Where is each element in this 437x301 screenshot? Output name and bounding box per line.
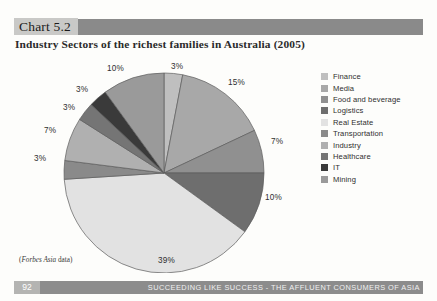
chart-legend: FinanceMediaFood and beverageLogisticsRe…: [321, 71, 433, 185]
pie-slice-label: 3%: [63, 103, 75, 112]
legend-item[interactable]: IT: [321, 162, 433, 173]
page-canvas: Chart 5.2 Industry Sectors of the riches…: [0, 0, 437, 301]
source-note-suffix: data): [56, 256, 72, 264]
legend-swatch-icon: [321, 153, 328, 160]
legend-item[interactable]: Finance: [321, 71, 433, 82]
source-note-publication: Forbes Asia: [21, 256, 56, 264]
legend-swatch-icon: [321, 73, 328, 80]
pie-slice-label: 3%: [34, 154, 46, 163]
legend-swatch-icon: [321, 107, 328, 114]
pie-slice-label: 3%: [171, 62, 183, 71]
chart-number-badge: Chart 5.2: [14, 18, 78, 35]
legend-item[interactable]: Transportation: [321, 128, 433, 139]
source-note: (Forbes Asia data): [19, 256, 72, 264]
page-number: 92: [14, 281, 40, 294]
page-title: Industry Sectors of the richest families…: [15, 38, 305, 50]
legend-swatch-icon: [321, 142, 328, 149]
legend-item-label: Transportation: [333, 129, 383, 138]
legend-swatch-icon: [321, 176, 328, 183]
legend-item[interactable]: Mining: [321, 174, 433, 185]
legend-swatch-icon: [321, 85, 328, 92]
legend-item-label: Food and beverage: [333, 95, 401, 104]
legend-item[interactable]: Media: [321, 82, 433, 93]
legend-item[interactable]: Healthcare: [321, 151, 433, 162]
pie-slice-label: 10%: [265, 193, 282, 202]
legend-item[interactable]: Industry: [321, 139, 433, 150]
pie-chart-svg: [24, 58, 304, 273]
legend-item-label: Healthcare: [333, 152, 371, 161]
pie-chart: 3%15%7%10%39%3%7%3%3%10%: [24, 58, 304, 273]
footer-text: SUCCEEDING LIKE SUCCESS - THE AFFLUENT C…: [148, 281, 420, 294]
legend-item-label: Real Estate: [333, 118, 373, 127]
legend-item-label: Finance: [333, 72, 361, 81]
legend-item[interactable]: Food and beverage: [321, 94, 433, 105]
pie-slice-label: 7%: [44, 126, 56, 135]
legend-item-label: Logistics: [333, 106, 363, 115]
legend-item[interactable]: Logistics: [321, 105, 433, 116]
legend-item-label: Mining: [333, 175, 356, 184]
pie-slice-label: 7%: [271, 137, 283, 146]
pie-slice-label: 39%: [158, 256, 175, 265]
legend-item-label: Media: [333, 84, 354, 93]
pie-slice-label: 15%: [228, 78, 245, 87]
legend-swatch-icon: [321, 96, 328, 103]
legend-swatch-icon: [321, 130, 328, 137]
legend-item[interactable]: Real Estate: [321, 117, 433, 128]
pie-slice-group: [64, 73, 264, 273]
pie-slice-label: 10%: [107, 64, 124, 73]
legend-swatch-icon: [321, 119, 328, 126]
legend-swatch-icon: [321, 164, 328, 171]
legend-item-label: IT: [333, 163, 340, 172]
pie-slice-label: 3%: [76, 85, 88, 94]
legend-item-label: Industry: [333, 141, 361, 150]
